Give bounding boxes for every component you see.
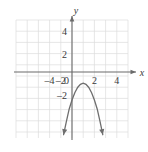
- coordinate-plane-graph: –4 –2 0 2 4 4 2 –2 y x: [0, 0, 148, 152]
- x-tick-label-neg4: –4: [44, 75, 55, 86]
- axis-arrowheads: [70, 16, 136, 74]
- x-tick-label-4: 4: [114, 75, 119, 86]
- x-tick-label-2: 2: [92, 75, 97, 86]
- graph-figure: –4 –2 0 2 4 4 2 –2 y x: [0, 0, 148, 152]
- y-tick-labels: 4 2 –2: [56, 26, 67, 101]
- x-tick-label-0: 0: [64, 75, 69, 86]
- y-axis-label: y: [73, 5, 79, 16]
- y-tick-label-4: 4: [62, 26, 67, 37]
- y-axis-arrow: [70, 16, 75, 22]
- y-tick-label-neg2: –2: [56, 90, 67, 101]
- x-axis-label: x: [139, 67, 145, 78]
- x-axis-arrow: [131, 70, 137, 75]
- y-tick-label-2: 2: [62, 49, 67, 60]
